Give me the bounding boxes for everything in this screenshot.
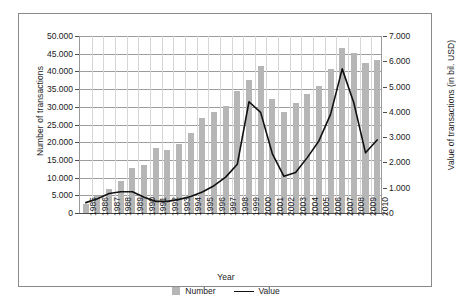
legend-label-value: Value [259, 286, 280, 296]
y-axis-right-tick-mark [383, 87, 387, 88]
x-axis-tick-1989: 1989 [135, 197, 145, 216]
y-axis-left-tick-label: 10.000 [47, 173, 73, 183]
y-axis-right-title: Value of transactions (in bil. USD) [446, 25, 456, 185]
y-axis-right-tick-label: 3.000 [389, 132, 410, 142]
y-axis-right-tick-label: 2.000 [389, 157, 410, 167]
y-axis-right-tick-mark [383, 36, 387, 37]
x-axis-tick-1992: 1992 [170, 197, 180, 216]
chart-legend: Number Value [19, 286, 433, 296]
x-axis-title: Year [19, 272, 433, 282]
x-axis-tick-1993: 1993 [182, 197, 192, 216]
plot-area [79, 36, 382, 213]
x-axis-tick-1985: 1985 [88, 197, 98, 216]
y-axis-right-tick-mark [383, 112, 387, 113]
x-axis-tick-1987: 1987 [112, 197, 122, 216]
y-axis-left-tick-label: 50.000 [47, 31, 73, 41]
y-axis-right-tick-mark [383, 162, 387, 163]
y-axis-left-tick-label: 15.000 [47, 155, 73, 165]
x-axis-tick-1990: 1990 [147, 197, 157, 216]
x-axis-tick-1994: 1994 [193, 197, 203, 216]
y-axis-left-tick-label: 5.000 [52, 190, 73, 200]
x-axis-tick-1998: 1998 [240, 197, 250, 216]
x-axis-tick-1988: 1988 [123, 197, 133, 216]
y-axis-right-ticks: 01.0002.0003.0004.0005.0006.0007.000 [389, 36, 429, 213]
y-axis-left-tick-label: 0 [68, 208, 73, 218]
legend-label-number: Number [185, 286, 215, 296]
x-axis-tick-1996: 1996 [217, 197, 227, 216]
x-axis-tick-2010: 2010 [380, 197, 390, 216]
x-axis-tick-2006: 2006 [333, 197, 343, 216]
y-axis-right-tick-label: 1.000 [389, 183, 410, 193]
x-axis-tick-2009: 2009 [368, 197, 378, 216]
y-axis-right-tick-label: 4.000 [389, 107, 410, 117]
y-axis-left-tick-label: 20.000 [47, 137, 73, 147]
x-axis-tick-2002: 2002 [286, 197, 296, 216]
line-series-value [80, 36, 383, 213]
legend-swatch-line-icon [234, 291, 254, 292]
y-axis-left-tick-label: 35.000 [47, 84, 73, 94]
x-axis-tick-2001: 2001 [275, 197, 285, 216]
x-axis-tick-1995: 1995 [205, 197, 215, 216]
legend-item-number: Number [172, 286, 215, 296]
y-axis-right-tick-label: 6.000 [389, 56, 410, 66]
x-axis-tick-2007: 2007 [345, 197, 355, 216]
y-axis-right-tick-label: 7.000 [389, 31, 410, 41]
chart-frame: Number of transactions Value of transact… [18, 13, 432, 287]
y-axis-right-tick-label: 5.000 [389, 82, 410, 92]
y-axis-right-tick-mark [383, 137, 387, 138]
y-axis-right-tick-mark [383, 188, 387, 189]
x-axis-tick-2004: 2004 [310, 197, 320, 216]
x-axis-tick-1999: 1999 [251, 197, 261, 216]
x-axis-tick-2008: 2008 [356, 197, 366, 216]
legend-swatch-square-icon [172, 287, 180, 295]
y-axis-left-tick-label: 25.000 [47, 120, 73, 130]
y-axis-left-tick-label: 40.000 [47, 66, 73, 76]
x-axis-tick-1986: 1986 [100, 197, 110, 216]
y-axis-left-tick-label: 45.000 [47, 49, 73, 59]
x-axis-tick-2005: 2005 [321, 197, 331, 216]
x-axis-tick-1997: 1997 [228, 197, 238, 216]
x-axis-tick-1991: 1991 [158, 197, 168, 216]
y-axis-left-tick-label: 30.000 [47, 102, 73, 112]
y-axis-left-ticks: 05.00010.00015.00020.00025.00030.00035.0… [27, 36, 73, 213]
legend-item-value: Value [234, 286, 280, 296]
x-axis-tick-2003: 2003 [298, 197, 308, 216]
y-axis-right-tick-mark [383, 61, 387, 62]
x-axis-tick-2000: 2000 [263, 197, 273, 216]
x-axis-ticks: 1985198619871988198919901991199219931994… [79, 214, 382, 270]
